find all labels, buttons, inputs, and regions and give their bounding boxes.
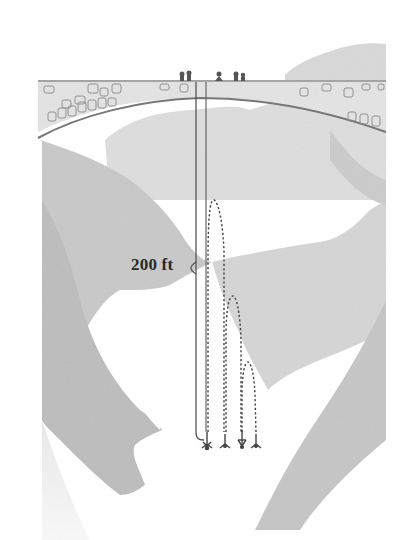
spectator-icon [187,71,192,76]
bungee-illustration [0,0,410,540]
spectators [180,71,246,82]
spectator-body [180,76,184,81]
spectator-body [241,77,245,81]
spectator-body [234,76,238,81]
spectator-icon [234,72,239,77]
spectator-icon [217,72,222,77]
spectator-body [187,75,191,81]
spectator-icon [180,72,185,77]
jumper-icon [251,434,261,448]
height-label: 200 ft [131,256,173,273]
spectator-icon [241,73,245,77]
spectator-body [215,76,223,81]
